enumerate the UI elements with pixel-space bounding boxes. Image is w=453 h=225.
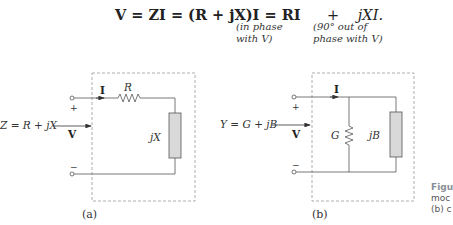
conductance-resistor-icon	[345, 126, 353, 145]
susceptance-label: jB	[367, 129, 380, 141]
reactance-element-icon	[169, 113, 181, 158]
minus-sign-b: −	[292, 160, 300, 170]
reactance-label: jX	[148, 131, 161, 143]
plus-sign-a: +	[70, 103, 78, 113]
terminal-top-a	[70, 96, 74, 100]
voltage-label-a: V	[67, 128, 77, 140]
circuit-b: Y = G + jB I V + − G jB (b)	[220, 73, 414, 221]
impedance-label: Z = R + jX	[0, 119, 57, 131]
circuit-a: Z = R + jX I R V + − jX (a)	[0, 73, 195, 221]
figure-caption-line2: moc	[431, 193, 453, 204]
resistor-r-icon	[118, 94, 140, 102]
plus-sign-b: +	[292, 102, 300, 112]
current-label-a: I	[100, 84, 105, 96]
resistor-label: R	[123, 81, 132, 93]
susceptance-element-icon	[390, 112, 402, 157]
minus-sign-a: −	[70, 162, 78, 172]
figure-caption-line3: (b) c	[431, 204, 453, 215]
figure-caption-line1: Figu	[431, 182, 453, 193]
voltage-label-b: V	[291, 128, 301, 140]
terminal-bottom-b	[292, 170, 296, 174]
terminal-bottom-a	[70, 172, 74, 176]
admittance-label: Y = G + jB	[220, 118, 278, 130]
current-label-b: I	[334, 83, 339, 95]
figure-caption: Figu moc (b) c	[431, 182, 453, 215]
caption-b: (b)	[312, 208, 328, 221]
terminal-top-b	[292, 95, 296, 99]
caption-a: (a)	[82, 208, 97, 221]
conductance-label: G	[331, 129, 339, 141]
